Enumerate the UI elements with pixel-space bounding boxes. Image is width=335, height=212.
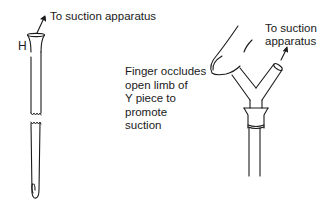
finger-icon — [211, 26, 252, 75]
arrow-up-icon — [281, 47, 288, 60]
caption-line: Finger occludes — [125, 65, 206, 79]
caption-block: Finger occludes open limb of Y piece to … — [125, 65, 206, 133]
caption-line: open limb of — [125, 79, 206, 93]
arrow-up-icon — [37, 16, 46, 33]
y-piece-assembly — [211, 26, 288, 176]
right-arrow-label-line1: To suction — [265, 22, 317, 36]
right-arrow-label-line2: apparatus — [265, 35, 316, 49]
caption-line: suction — [125, 119, 206, 133]
side-hole-label: H — [18, 40, 27, 54]
left-arrow-label: To suction apparatus — [50, 10, 156, 24]
caption-line: Y piece to — [125, 92, 206, 106]
suction-catheter — [28, 16, 46, 198]
caption-line: promote — [125, 106, 206, 120]
